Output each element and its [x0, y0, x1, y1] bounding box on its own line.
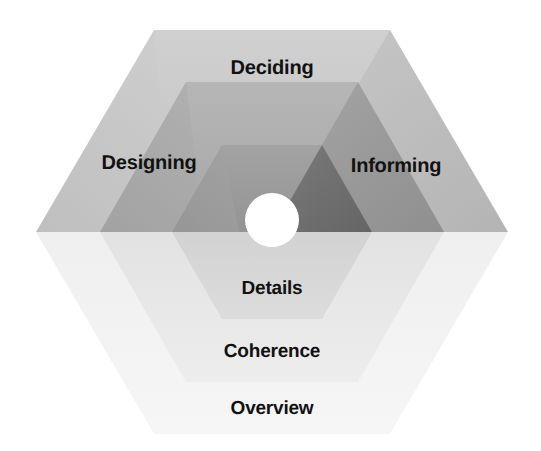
- label-details: Details: [242, 278, 303, 300]
- hexagon-diagram: Deciding Designing Informing Details Coh…: [0, 0, 541, 451]
- label-informing: Informing: [351, 155, 441, 178]
- center-hub-hole: [245, 193, 299, 247]
- label-deciding: Deciding: [231, 57, 314, 80]
- label-coherence: Coherence: [224, 341, 320, 363]
- label-designing: Designing: [102, 152, 197, 175]
- label-overview: Overview: [231, 398, 314, 420]
